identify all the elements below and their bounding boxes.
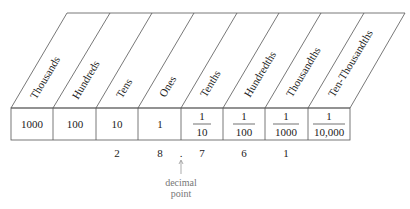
- decimal-point: .: [180, 147, 183, 159]
- fraction-numerator: 1: [241, 110, 247, 122]
- digit-thousandths: 1: [283, 147, 289, 159]
- header-thousandths: Thousandths: [283, 45, 322, 99]
- fraction-numerator: 1: [199, 110, 205, 122]
- fraction-numerator: 1: [283, 110, 289, 122]
- digit-tenths: 7: [199, 147, 205, 159]
- fraction-denominator: 10,000: [314, 126, 345, 138]
- value-tens: 10: [112, 118, 124, 130]
- fraction-denominator: 100: [236, 126, 253, 138]
- header-ten-thousandths: Ten-Thousandths: [325, 28, 375, 100]
- value-ones: 1: [157, 118, 163, 130]
- digit-hundredths: 6: [241, 147, 247, 159]
- value-row: [11, 108, 350, 140]
- value-thousands: 1000: [21, 118, 44, 130]
- header-thousands: Thousands: [27, 54, 62, 101]
- digit-ones: 8: [157, 147, 163, 159]
- example-digits: 2 8 . 7 6 1: [114, 147, 289, 159]
- fraction-denominator: 10: [197, 126, 209, 138]
- value-hundreds: 100: [67, 118, 84, 130]
- values: 1000 100 10 1 1 10 1 100 1 1000 1 10,000: [21, 110, 345, 138]
- fraction-thousandths: 1 1000: [273, 110, 299, 138]
- place-value-diagram: Thousands Hundreds Tens Ones Tenths Hund…: [0, 0, 410, 209]
- header-hundreds: Hundreds: [69, 58, 101, 101]
- fraction-denominator: 1000: [275, 126, 298, 138]
- annotation-line1: decimal: [165, 177, 197, 188]
- fraction-hundredths: 1 100: [233, 110, 255, 138]
- annotation-line2: point: [171, 188, 192, 199]
- digit-tens: 2: [114, 147, 120, 159]
- fraction-tenths: 1 10: [193, 110, 211, 138]
- header-ones: Ones: [156, 73, 178, 99]
- fraction-ten-thousandths: 1 10,000: [313, 110, 345, 138]
- decimal-point-annotation: decimal point: [165, 160, 197, 199]
- header-tenths: Tenths: [197, 68, 222, 99]
- fraction-numerator: 1: [326, 110, 332, 122]
- header-hundredths: Hundredths: [241, 49, 278, 99]
- header-tens: Tens: [113, 76, 134, 100]
